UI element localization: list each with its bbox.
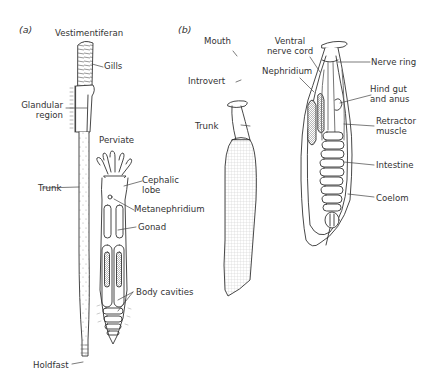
introvert-worm-drawing	[224, 101, 256, 296]
diagram-artwork	[0, 0, 431, 384]
label-vestimentiferan: Vestimentiferan	[55, 28, 123, 38]
label-intestine: Intestine	[376, 160, 414, 170]
label-gills: Gills	[104, 61, 122, 71]
panel-label-a: (a)	[19, 24, 32, 35]
label-nephridium: Nephridium	[262, 66, 312, 76]
label-coelom: Coelom	[376, 193, 409, 203]
label-gonad: Gonad	[138, 222, 166, 232]
vestimentiferan-drawing	[70, 41, 94, 356]
perviate-drawing	[97, 151, 132, 344]
label-trunk-vestimentiferan: Trunk	[38, 183, 61, 193]
label-introvert: Introvert	[188, 76, 225, 86]
label-body-cavities: Body cavities	[136, 287, 193, 297]
label-hind-gut-and-anus: Hind gut and anus	[370, 84, 410, 104]
label-trunk-b: Trunk	[195, 121, 218, 131]
label-nerve-ring: Nerve ring	[371, 57, 416, 67]
label-glandular-region: Glandular region	[20, 100, 63, 120]
label-perviate: Perviate	[99, 135, 134, 145]
label-cephalic-lobe: Cephalic lobe	[142, 175, 179, 195]
label-metanephridium: Metanephridium	[134, 204, 205, 214]
label-holdfast: Holdfast	[33, 360, 69, 370]
label-ventral-nerve-cord: Ventral nerve cord	[262, 36, 318, 56]
panel-label-b: (b)	[178, 24, 191, 35]
label-mouth: Mouth	[204, 36, 231, 46]
label-retractor-muscle: Retractor muscle	[376, 116, 416, 136]
